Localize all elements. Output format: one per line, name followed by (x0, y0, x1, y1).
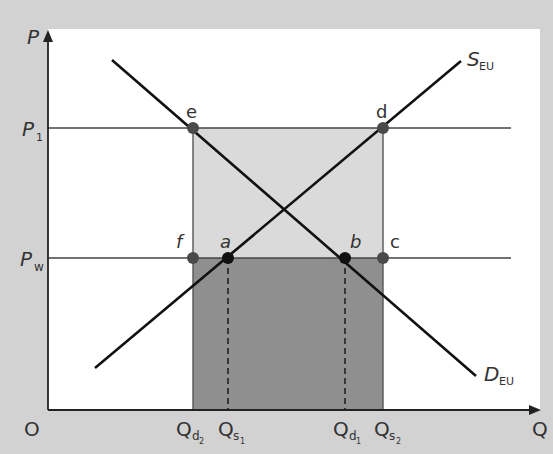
point-a (222, 252, 234, 264)
point-c (377, 252, 389, 264)
qs1-label: Q s 1 (218, 417, 245, 446)
label-e: e (186, 101, 197, 122)
dark-shaded-area (193, 258, 383, 410)
svg-text:P: P (20, 247, 33, 271)
point-b (339, 252, 351, 264)
svg-text:Q: Q (333, 417, 349, 441)
point-e (187, 122, 199, 134)
label-a: a (220, 231, 231, 252)
svg-text:Q: Q (176, 417, 192, 441)
svg-text:1: 1 (36, 131, 43, 144)
svg-text:1: 1 (356, 437, 361, 446)
pw-label: P w (20, 247, 44, 274)
label-b: b (350, 231, 361, 252)
p1-label: P 1 (22, 117, 43, 144)
svg-text:s: s (389, 429, 395, 443)
svg-text:2: 2 (396, 437, 401, 446)
svg-text:2: 2 (199, 437, 204, 446)
svg-text:1: 1 (240, 437, 245, 446)
svg-text:Q: Q (218, 417, 234, 441)
point-f (187, 252, 199, 264)
svg-text:s: s (233, 429, 239, 443)
svg-text:EU: EU (499, 375, 514, 388)
svg-text:w: w (34, 260, 44, 274)
svg-text:P: P (22, 117, 35, 141)
tariff-diagram: e d f a b c P Q O P 1 P w Q d 2 Q s 1 Q … (0, 0, 553, 454)
qd1-label: Q d 1 (333, 417, 361, 446)
diagram-canvas: e d f a b c P Q O P 1 P w Q d 2 Q s 1 Q … (0, 0, 553, 454)
label-c: c (390, 231, 400, 252)
label-d: d (376, 101, 387, 122)
svg-text:EU: EU (479, 60, 494, 73)
qd2-label: Q d 2 (176, 417, 204, 446)
origin-label: O (24, 417, 40, 441)
x-axis-label: Q (532, 417, 548, 441)
svg-text:Q: Q (374, 417, 390, 441)
svg-text:D: D (484, 362, 499, 386)
qs2-label: Q s 2 (374, 417, 401, 446)
y-axis-label: P (27, 25, 40, 49)
point-d (377, 122, 389, 134)
